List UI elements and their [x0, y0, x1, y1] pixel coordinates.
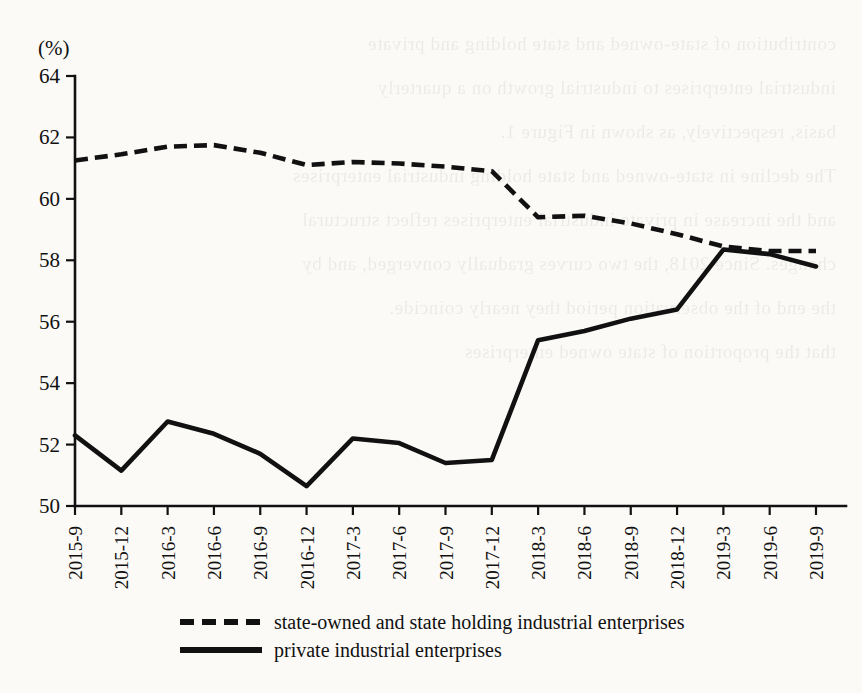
- y-tick-label: 60: [39, 187, 60, 211]
- line-chart: (%) 5052545658606264 2015-92015-122016-3…: [0, 0, 862, 693]
- x-tick-label: 2015-12: [111, 526, 132, 589]
- y-tick-label: 56: [39, 310, 60, 334]
- x-tick-label: 2019-9: [806, 526, 827, 580]
- x-tick-label: 2016-3: [158, 526, 179, 580]
- chart-legend: state-owned and state holding industrial…: [180, 611, 685, 662]
- x-tick-label: 2016-9: [250, 526, 271, 580]
- series-line-private: [75, 250, 816, 487]
- x-tick-label: 2015-9: [65, 526, 86, 580]
- y-tick-label: 50: [39, 494, 60, 518]
- x-tick-label: 2018-9: [621, 526, 642, 580]
- x-tick-label: 2017-9: [436, 526, 457, 580]
- y-axis-ticks: 5052545658606264: [39, 64, 75, 518]
- x-tick-label: 2018-3: [528, 526, 549, 580]
- x-tick-label: 2017-6: [389, 526, 410, 580]
- series-line-state-owned: [75, 145, 816, 251]
- legend-label: state-owned and state holding industrial…: [274, 611, 685, 634]
- legend-label: private industrial enterprises: [274, 639, 502, 662]
- y-tick-label: 64: [39, 64, 61, 88]
- x-tick-label: 2017-3: [343, 526, 364, 580]
- x-tick-label: 2017-12: [482, 526, 503, 589]
- y-tick-label: 62: [39, 125, 60, 149]
- x-tick-label: 2016-12: [297, 526, 318, 589]
- x-axis-ticks: 2015-92015-122016-32016-62016-92016-1220…: [65, 506, 827, 589]
- x-tick-label: 2016-6: [204, 526, 225, 580]
- y-axis-unit-label: (%): [38, 36, 69, 60]
- y-tick-label: 54: [39, 371, 61, 395]
- x-tick-label: 2018-12: [667, 526, 688, 589]
- x-tick-label: 2018-6: [574, 526, 595, 580]
- chart-figure: (%) 5052545658606264 2015-92015-122016-3…: [0, 0, 862, 693]
- y-tick-label: 52: [39, 433, 60, 457]
- x-tick-label: 2019-3: [713, 526, 734, 580]
- y-tick-label: 58: [39, 248, 60, 272]
- x-tick-label: 2019-6: [760, 526, 781, 580]
